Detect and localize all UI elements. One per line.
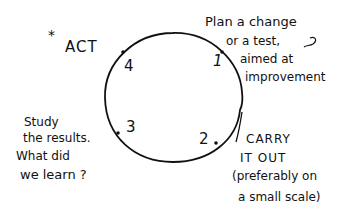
tick-mark-3 [116, 131, 120, 135]
step-2-line-1: CARRY [246, 133, 291, 146]
step-1-line-2: or a test, [226, 35, 280, 48]
step-number-2: 2 [199, 132, 209, 147]
tick-mark-2 [214, 141, 218, 145]
step-3-line-3: What did [16, 150, 70, 163]
step-2-line-2: IT OUT [240, 152, 286, 165]
step-number-1: 1 [213, 54, 223, 69]
step-number-4: 4 [124, 59, 134, 74]
test-bracket [304, 37, 316, 47]
tick-mark-4 [121, 50, 125, 54]
step-2-line-4: a small scale) [238, 191, 321, 204]
asterisk-marker: * [48, 27, 55, 43]
step-1-line-3: aimed at [240, 53, 293, 66]
step-2-line-3: (preferably on [232, 170, 317, 183]
step-3-line-2: the results. [23, 132, 91, 145]
step-3-line-4: we learn ? [20, 168, 87, 181]
step-number-3: 3 [126, 120, 136, 135]
step-3-line-1: Study [24, 116, 59, 129]
pdsa-cycle-diagram: * ACT 1 2 3 4 Plan a change or a test, a… [0, 0, 346, 223]
act-label: ACT [65, 41, 98, 54]
step-1-line-4: improvement [245, 71, 326, 84]
step-1-line-1: Plan a change [205, 15, 297, 28]
